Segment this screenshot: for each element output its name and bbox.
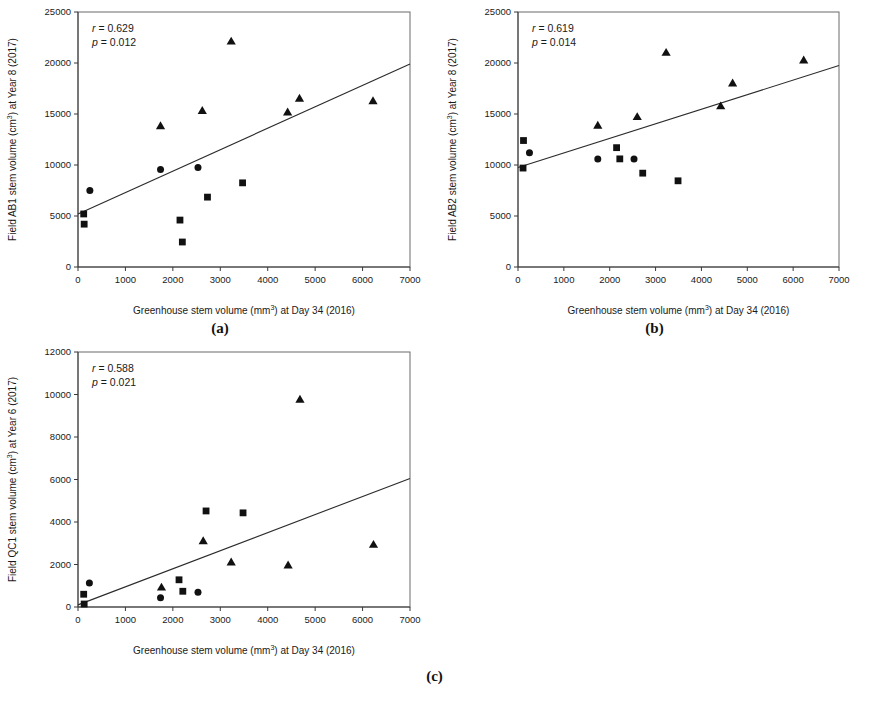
data-point-triangle	[593, 121, 602, 129]
data-point-square	[613, 144, 620, 151]
x-tick-label: 3000	[645, 274, 666, 285]
data-point-square	[80, 211, 87, 218]
scatter-plot-a: 0500010000150002000025000010002000300040…	[0, 0, 440, 320]
panel-c-label: (c)	[0, 668, 869, 685]
y-tick-label: 25000	[45, 6, 71, 17]
data-point-square	[520, 165, 527, 172]
figure-three-scatter-panels: 0500010000150002000025000010002000300040…	[0, 0, 869, 701]
scatter-plot-c: 0200040006000800010000120000100020003000…	[0, 340, 440, 660]
data-point-triangle	[284, 561, 293, 569]
data-point-square	[616, 155, 623, 162]
x-tick-label: 2000	[162, 274, 183, 285]
data-point-square	[239, 179, 246, 186]
x-axis-title: Greenhouse stem volume (mm3) at Day 34 (…	[133, 644, 355, 656]
data-point-triangle	[157, 583, 166, 591]
data-point-circle	[157, 166, 164, 173]
x-tick-label: 4000	[691, 274, 712, 285]
data-point-circle	[157, 594, 164, 601]
data-point-square	[203, 508, 210, 515]
y-tick-label: 6000	[50, 474, 71, 485]
x-tick-label: 0	[515, 274, 520, 285]
x-tick-label: 6000	[352, 274, 373, 285]
x-tick-label: 6000	[783, 274, 804, 285]
x-tick-label: 3000	[210, 614, 231, 625]
y-tick-label: 10000	[45, 159, 71, 170]
x-tick-label: 0	[75, 614, 80, 625]
data-point-square	[80, 591, 87, 598]
x-tick-label: 5000	[737, 274, 758, 285]
y-tick-label: 12000	[45, 346, 71, 357]
scatter-plot-b: 0500010000150002000025000010002000300040…	[440, 0, 869, 320]
y-tick-label: 20000	[45, 57, 71, 68]
data-point-square	[177, 217, 184, 224]
y-tick-label: 10000	[45, 389, 71, 400]
y-tick-label: 0	[506, 261, 511, 272]
plot-frame	[78, 352, 410, 607]
y-tick-label: 0	[66, 261, 71, 272]
y-tick-label: 0	[66, 601, 71, 612]
data-point-square	[675, 177, 682, 184]
panel-c: 0200040006000800010000120000100020003000…	[0, 340, 440, 701]
data-point-triangle	[368, 96, 377, 104]
y-tick-label: 5000	[50, 210, 71, 221]
y-axis-title: Field AB1 stem volume (cm3) at Year 8 (2…	[6, 38, 18, 241]
p-value-annotation: p = 0.012	[91, 36, 136, 48]
regression-line	[78, 64, 410, 214]
data-point-square	[81, 221, 88, 228]
y-tick-label: 25000	[485, 6, 511, 17]
y-tick-label: 8000	[50, 431, 71, 442]
y-axis-title: Field AB2 stem volume (cm3) at Year 8 (2…	[446, 38, 458, 241]
correlation-r-annotation: r = 0.588	[92, 362, 134, 374]
data-point-square	[639, 170, 646, 177]
regression-line	[78, 478, 410, 604]
x-tick-label: 7000	[828, 274, 849, 285]
y-axis-title: Field QC1 stem volume (cm3) at Year 6 (2…	[6, 377, 18, 582]
regression-line	[518, 66, 839, 168]
panel-b: 0500010000150002000025000010002000300040…	[440, 0, 869, 340]
x-tick-label: 1000	[553, 274, 574, 285]
plot-frame	[518, 12, 839, 267]
data-point-triangle	[728, 78, 737, 86]
data-point-circle	[86, 579, 93, 586]
x-tick-label: 5000	[305, 274, 326, 285]
y-tick-label: 15000	[485, 108, 511, 119]
data-point-circle	[194, 164, 201, 171]
y-tick-label: 15000	[45, 108, 71, 119]
data-point-circle	[86, 187, 93, 194]
data-point-circle	[594, 155, 601, 162]
p-value-annotation: p = 0.021	[91, 376, 136, 388]
data-point-square	[520, 137, 527, 144]
data-point-triangle	[198, 106, 207, 114]
x-tick-label: 1000	[115, 274, 136, 285]
data-point-triangle	[799, 56, 808, 64]
x-tick-label: 7000	[399, 614, 420, 625]
data-point-triangle	[662, 48, 671, 56]
x-tick-label: 0	[75, 274, 80, 285]
x-tick-label: 2000	[599, 274, 620, 285]
data-point-square	[176, 576, 183, 583]
x-tick-label: 2000	[162, 614, 183, 625]
x-tick-label: 4000	[257, 274, 278, 285]
data-point-square	[81, 601, 88, 608]
data-point-triangle	[199, 536, 208, 544]
data-point-triangle	[283, 108, 292, 116]
x-tick-label: 7000	[399, 274, 420, 285]
y-tick-label: 5000	[490, 210, 511, 221]
x-axis-title: Greenhouse stem volume (mm3) at Day 34 (…	[568, 304, 790, 316]
correlation-r-annotation: r = 0.619	[532, 22, 574, 34]
panel-b-label: (b)	[440, 320, 869, 337]
data-point-triangle	[295, 395, 304, 403]
p-value-annotation: p = 0.014	[531, 36, 576, 48]
x-tick-label: 4000	[257, 614, 278, 625]
data-point-square	[204, 194, 211, 201]
data-point-circle	[194, 589, 201, 596]
data-point-square	[179, 239, 186, 246]
y-tick-label: 20000	[485, 57, 511, 68]
y-tick-label: 2000	[50, 559, 71, 570]
data-point-triangle	[156, 121, 165, 129]
data-point-square	[240, 509, 247, 516]
data-point-circle	[631, 155, 638, 162]
data-point-square	[179, 588, 186, 595]
data-point-circle	[526, 149, 533, 156]
x-axis-title: Greenhouse stem volume (mm3) at Day 34 (…	[133, 304, 355, 316]
